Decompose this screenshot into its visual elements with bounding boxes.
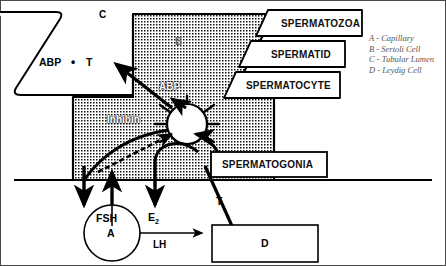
lumen-testosterone-label: T <box>86 57 92 68</box>
legend-dash-a: - <box>376 33 379 43</box>
legend-key-c: C <box>369 54 375 64</box>
legend-label-a: Capillary <box>381 33 414 43</box>
estradiol-subscript: 2 <box>155 218 159 225</box>
capillary-label-a: A <box>107 228 115 239</box>
lumen-separator-dot: • <box>71 56 75 68</box>
legend-item-c: C - Tubular Lumen <box>369 54 434 65</box>
testosterone-label: T <box>216 196 222 207</box>
legend-item-b: B - Sertoli Cell <box>369 44 434 55</box>
label-sertoli-cell-b: B <box>175 37 182 47</box>
legend-label-c: Tubular Lumen <box>382 54 434 64</box>
legend-key-a: A <box>369 33 374 43</box>
legend-dash-d: - <box>377 65 380 75</box>
legend-dash-b: - <box>376 44 379 54</box>
lh-label: LH <box>153 240 166 250</box>
legend: A - Capillary B - Sertoli Cell C - Tubul… <box>369 33 434 75</box>
legend-item-d: D - Leydig Cell <box>369 65 434 76</box>
estradiol-symbol: E <box>148 211 155 223</box>
inhibin-label: Inhibin <box>107 115 140 125</box>
spermatocyte-label: SPERMATOCYTE <box>246 80 331 91</box>
legend-key-b: B <box>369 44 374 54</box>
lumen-abp-label: ABP <box>39 57 61 68</box>
spermatid-label: SPERMATID <box>271 49 331 60</box>
sertoli-nucleus <box>167 104 207 144</box>
spermatozoa-label: SPERMATOZOA <box>281 18 360 29</box>
estradiol-label: E2 <box>148 212 159 225</box>
legend-label-d: Leydig Cell <box>382 65 421 75</box>
fsh-label: FSH <box>96 213 117 224</box>
legend-dash-c: - <box>377 54 380 64</box>
spermatogonia-label: SPERMATOGONIA <box>222 159 313 170</box>
legend-item-a: A - Capillary <box>369 33 434 44</box>
sertoli-seam-fill <box>134 92 231 100</box>
abp-secretion-label: ABP <box>159 82 180 92</box>
legend-key-d: D <box>369 65 375 75</box>
diagram-canvas: C B ABP • T ABP Inhibin FSH E2 T LH A D … <box>0 0 446 266</box>
tubular-lumen-outline <box>0 12 133 95</box>
legend-label-b: Sertoli Cell <box>381 44 420 54</box>
leydig-label-d: D <box>261 238 269 249</box>
label-tubular-lumen-c: C <box>99 10 106 20</box>
